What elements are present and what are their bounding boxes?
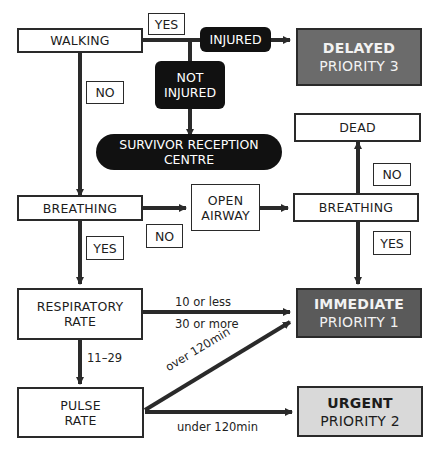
node-open-airway: OPENAIRWAY bbox=[191, 184, 260, 231]
breathing-label: BREATHING bbox=[319, 200, 393, 215]
breathing-label: BREATHING bbox=[43, 201, 117, 216]
yes-label: YES bbox=[380, 236, 403, 251]
node-walking-label: WALKING bbox=[50, 33, 110, 48]
node-injured: INJURED bbox=[200, 27, 271, 52]
urgent-priority: PRIORITY 2 bbox=[320, 412, 400, 430]
node-immediate: IMMEDIATEPRIORITY 1 bbox=[296, 288, 422, 338]
yes-label: YES bbox=[155, 17, 178, 32]
edge-label-11-29: 11–29 bbox=[87, 351, 122, 365]
label-breathing2-no: NO bbox=[373, 163, 411, 186]
immediate-priority: PRIORITY 1 bbox=[319, 313, 399, 331]
node-breathing-left: BREATHING bbox=[17, 195, 143, 221]
immediate-title: IMMEDIATE bbox=[314, 295, 404, 313]
no-label: NO bbox=[155, 229, 174, 244]
edge-label-10-or-less: 10 or less bbox=[175, 295, 231, 309]
injured-label: INJURED bbox=[209, 32, 261, 47]
open-label: OPEN bbox=[208, 193, 243, 208]
node-survivor-reception: SURVIVOR RECEPTIONCENTRE bbox=[96, 134, 282, 170]
node-respiratory-rate: RESPIRATORYRATE bbox=[17, 288, 143, 340]
rate-label: RATE bbox=[64, 314, 96, 329]
delayed-priority: PRIORITY 3 bbox=[319, 57, 399, 75]
edge-label-under-120: under 120min bbox=[177, 420, 258, 434]
pulse-label: PULSE bbox=[60, 398, 100, 413]
rate-label: RATE bbox=[64, 413, 96, 428]
injured-label-2: INJURED bbox=[164, 85, 216, 100]
edge-label-30-or-more: 30 or more bbox=[175, 317, 239, 331]
respiratory-label: RESPIRATORY bbox=[37, 299, 124, 314]
not-label: NOT bbox=[177, 70, 204, 85]
label-breathing2-yes: YES bbox=[373, 231, 411, 255]
label-breathing-no: NO bbox=[146, 224, 183, 248]
urgent-title: URGENT bbox=[327, 394, 393, 412]
survivor-label-1: SURVIVOR RECEPTION bbox=[119, 137, 258, 152]
no-label: NO bbox=[95, 85, 114, 100]
node-urgent: URGENTPRIORITY 2 bbox=[297, 386, 423, 437]
label-walking-yes: YES bbox=[148, 13, 185, 35]
dead-label: DEAD bbox=[339, 120, 376, 135]
no-label: NO bbox=[382, 167, 401, 182]
node-breathing-right: BREATHING bbox=[293, 193, 419, 222]
label-walking-no: NO bbox=[86, 81, 124, 104]
node-walking: WALKING bbox=[17, 28, 143, 53]
airway-label: AIRWAY bbox=[201, 208, 250, 223]
yes-label: YES bbox=[93, 241, 116, 256]
delayed-title: DELAYED bbox=[323, 39, 395, 57]
label-breathing-yes: YES bbox=[86, 236, 124, 260]
node-not-injured: NOTINJURED bbox=[155, 61, 225, 109]
node-delayed: DELAYEDPRIORITY 3 bbox=[296, 28, 422, 86]
survivor-label-2: CENTRE bbox=[164, 152, 214, 167]
node-pulse-rate: PULSERATE bbox=[17, 387, 144, 438]
node-dead: DEAD bbox=[294, 113, 421, 142]
